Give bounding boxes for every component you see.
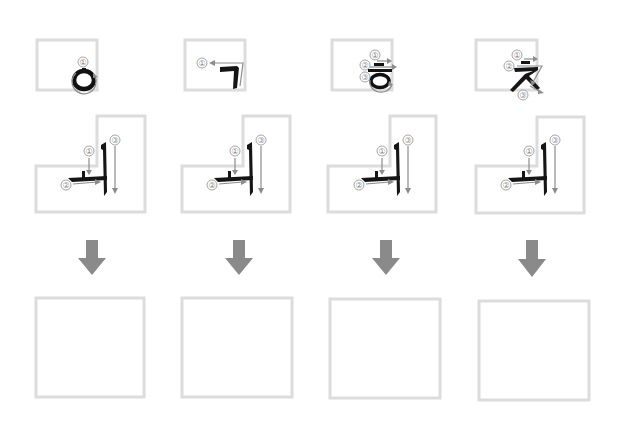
practice-column-2: ① ① ② ③ [147, 0, 294, 425]
answer-box[interactable] [330, 299, 440, 398]
column-1-graphics: ① ① ② ③ [0, 0, 160, 425]
stroke-number: ① [231, 147, 238, 156]
down-arrow-icon [225, 240, 253, 275]
vowel-guide-box [36, 116, 145, 212]
down-arrow-icon [372, 240, 400, 275]
consonant-stroke-demo: ① [197, 58, 243, 89]
stroke-number: ② [502, 181, 509, 190]
consonant-guide-box [37, 40, 97, 90]
stroke-number: ① [85, 147, 92, 156]
stroke-number: ③ [551, 136, 558, 145]
practice-column-4: ① ② ③ ① ② ③ [441, 0, 588, 425]
stroke-number: ② [505, 62, 512, 71]
down-arrow-icon [518, 240, 546, 277]
stroke-number: ③ [257, 136, 264, 145]
stroke-number: ③ [519, 91, 526, 100]
answer-box[interactable] [182, 298, 292, 397]
stroke-number: ② [208, 181, 215, 190]
hieut-glyph [374, 63, 384, 66]
answer-box[interactable] [479, 301, 589, 400]
practice-column-1: ① ① ② ③ [0, 0, 147, 425]
ieung-glyph [74, 71, 94, 89]
giyeok-glyph [220, 66, 239, 89]
column-4-graphics: ① ② ③ ① ② ③ [441, 0, 611, 425]
stroke-number: ① [198, 59, 205, 68]
stroke-number: ③ [361, 73, 368, 82]
chieut-glyph [521, 61, 530, 64]
stroke-number: ① [378, 147, 385, 156]
consonant-stroke-demo: ① [72, 57, 98, 94]
stroke-number: ① [79, 58, 86, 67]
column-3-graphics: ① ② ③ ① ② ③ [294, 0, 454, 425]
stroke-number: ③ [111, 136, 118, 145]
answer-box[interactable] [36, 298, 144, 397]
stroke-number: ② [62, 181, 69, 190]
vowel-guide-box [182, 116, 290, 212]
down-arrow-icon [78, 240, 106, 275]
column-2-graphics: ① ① ② ③ [147, 0, 307, 425]
vowel-guide-box [476, 117, 584, 213]
stroke-number: ① [525, 147, 532, 156]
stroke-number: ② [355, 181, 362, 190]
practice-column-3: ① ② ③ ① ② ③ [294, 0, 441, 425]
stroke-number: ① [513, 51, 520, 60]
stroke-number: ② [361, 61, 368, 70]
stroke-number: ③ [404, 136, 411, 145]
stroke-number: ① [371, 51, 378, 60]
